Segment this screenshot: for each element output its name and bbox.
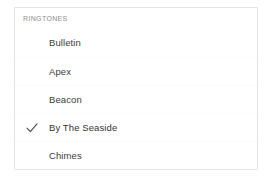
list-item[interactable]: Chimes: [15, 141, 257, 169]
list-item[interactable]: Beacon: [15, 85, 257, 113]
checkmark-slot: [15, 142, 49, 170]
list-item-label: Bulletin: [49, 37, 81, 49]
checkmark-slot: [15, 58, 49, 86]
list-item[interactable]: Bulletin: [15, 29, 257, 57]
ringtones-settings-screen: RINGTONES Bulletin Apex: [0, 0, 271, 188]
list-item-label: Apex: [49, 66, 71, 78]
checkmark-slot: [15, 114, 49, 142]
list-item-selected[interactable]: By The Seaside: [15, 113, 257, 141]
checkmark-slot: [15, 86, 49, 114]
ringtones-list-card: RINGTONES Bulletin Apex: [14, 7, 258, 170]
list-item-label: Chimes: [49, 150, 82, 162]
list-item[interactable]: Apex: [15, 57, 257, 85]
checkmark-icon: [26, 122, 38, 134]
ringtone-option-list: Bulletin Apex Beacon: [15, 29, 257, 169]
list-item-label: By The Seaside: [49, 122, 117, 134]
checkmark-slot: [15, 29, 49, 57]
list-item-label: Beacon: [49, 94, 82, 106]
section-header-ringtones: RINGTONES: [23, 14, 68, 23]
